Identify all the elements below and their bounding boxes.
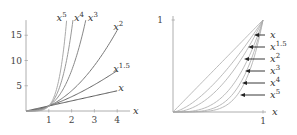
arrow-head-icon xyxy=(240,93,245,97)
arrow-head-icon xyxy=(248,45,253,49)
x-tick-label: 4 xyxy=(114,115,120,125)
curve-x-pow-3 xyxy=(26,20,86,111)
curve-label-x-pow-5: x5 xyxy=(57,11,67,23)
curve-x-pow-5 xyxy=(26,21,67,111)
y-tick-label: 15 xyxy=(11,30,23,40)
x-axis-label: x xyxy=(272,106,278,117)
right-chart: 11xxx1.5x2x3x4x5 xyxy=(157,15,287,126)
arrow-head-icon xyxy=(242,81,247,85)
legend-label-x-pow-2: x2 xyxy=(270,52,280,64)
x-axis-label: x xyxy=(133,105,139,116)
legend-label-x-pow-3: x3 xyxy=(270,64,280,76)
x-tick-label: 3 xyxy=(92,115,98,125)
y-tick-label: 10 xyxy=(11,56,23,66)
curve-label-x-pow-2: x2 xyxy=(113,20,123,32)
legend-label-x-pow-1.5: x1.5 xyxy=(270,40,287,52)
arrow-head-icon xyxy=(244,57,249,61)
curve-label-x-pow-1.5: x1.5 xyxy=(113,62,130,74)
x-tick-label: 2 xyxy=(69,115,75,125)
curve-label-x-pow-3: x3 xyxy=(88,11,98,23)
y-tick-label: 1 xyxy=(157,15,163,25)
curve-x-pow-4 xyxy=(26,20,73,111)
curve-label-x: x xyxy=(118,82,124,93)
power-functions-figure: 123451015xxx1.5x2x3x4x5 11xxx1.5x2x3x4x5 xyxy=(0,0,297,135)
left-chart: 123451015xxx1.5x2x3x4x5 xyxy=(11,11,139,125)
curve-label-x-pow-4: x4 xyxy=(74,11,85,23)
x-tick-label: 1 xyxy=(260,116,266,126)
legend-label-x-pow-5: x5 xyxy=(270,88,280,100)
y-tick-label: 5 xyxy=(16,81,22,91)
curve-x xyxy=(26,91,117,111)
x-tick-label: 1 xyxy=(46,115,52,125)
curve-x xyxy=(173,20,263,112)
legend-label-x-pow-4: x4 xyxy=(270,76,281,88)
legend-label-x: x xyxy=(270,29,276,40)
